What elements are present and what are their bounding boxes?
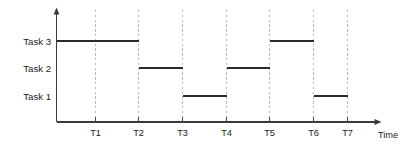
row-label-task2: Task 2 (23, 63, 51, 74)
y-axis-arrow-icon (54, 8, 60, 15)
tick-label-t2: T2 (133, 128, 144, 138)
x-axis-arrow-icon (375, 119, 382, 125)
row-label-task3: Task 3 (23, 36, 51, 47)
tick-label-t6: T6 (308, 128, 319, 138)
tick-label-t5: T5 (264, 128, 275, 138)
row-labels: Task 3 Task 2 Task 1 (23, 36, 51, 102)
task-segments (57, 41, 348, 96)
tick-label-t4: T4 (221, 128, 232, 138)
chart-canvas: Task 3 Task 2 Task 1 T1 T2 T3 T4 T5 T6 T… (0, 0, 419, 152)
tick-label-t7: T7 (342, 128, 353, 138)
tick-marks (96, 117, 348, 122)
timing-diagram: Task 3 Task 2 Task 1 T1 T2 T3 T4 T5 T6 T… (0, 0, 419, 152)
x-axis-title: Time (378, 130, 398, 140)
tick-label-t3: T3 (177, 128, 188, 138)
row-label-task1: Task 1 (23, 91, 51, 102)
tick-label-t1: T1 (90, 128, 101, 138)
axes (54, 8, 382, 125)
tick-labels: T1 T2 T3 T4 T5 T6 T7 (90, 128, 353, 138)
gridlines (96, 10, 348, 122)
